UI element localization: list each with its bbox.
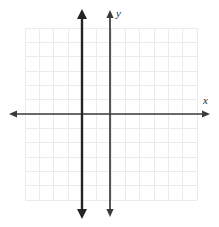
graph-line-top-arrowhead (77, 9, 87, 19)
x-axis-label: x (203, 95, 208, 106)
x-axis-left-arrowhead (9, 110, 17, 117)
graph-line-bottom-arrowhead (77, 209, 87, 219)
x-axis-right-arrowhead (202, 110, 210, 117)
y-axis-bottom-arrowhead (106, 209, 113, 217)
graph-figure: y x (0, 0, 219, 227)
y-axis-top-arrowhead (106, 10, 113, 18)
y-axis-label: y (116, 8, 121, 19)
coordinate-plane-canvas (0, 0, 219, 227)
